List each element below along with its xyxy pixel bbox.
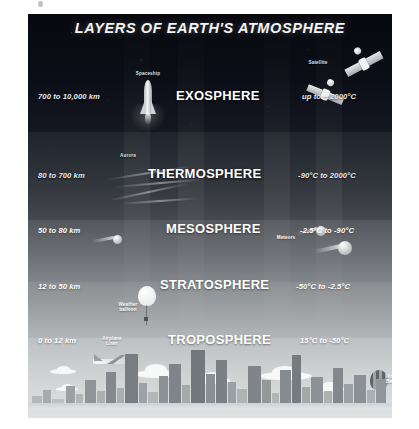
aurora-caption: Aurora	[106, 153, 150, 159]
temperature-label-exosphere: up to ~ 2000°C	[302, 92, 356, 101]
altitude-label-mesosphere: 50 to 80 km	[38, 226, 80, 235]
city-skyline	[28, 332, 392, 410]
meteors-caption: Meteors	[264, 235, 308, 241]
light-column	[264, 14, 290, 344]
poster-title: LAYERS OF EARTH'S ATMOSPHERE	[28, 20, 392, 36]
layer-name-mesosphere: MESOSPHERE	[166, 221, 261, 236]
temperature-label-thermosphere: -90°C to 2000°C	[298, 171, 356, 180]
spaceship-caption: Spaceship	[126, 71, 170, 77]
meteor-icon	[92, 232, 122, 246]
screenshot-canvas: LAYERS OF EARTH'S ATMOSPHERE Spaceship S…	[0, 0, 419, 429]
altitude-label-exosphere: 700 to 10,000 km	[38, 92, 100, 101]
layer-name-stratosphere: STRATOSPHERE	[160, 277, 269, 292]
temperature-label-mesosphere: -2.5°C to -90°C	[300, 226, 354, 235]
weather-balloon-caption-line2: balloon	[106, 307, 150, 312]
altitude-label-stratosphere: 12 to 50 km	[38, 282, 80, 291]
atmosphere-infographic: LAYERS OF EARTH'S ATMOSPHERE Spaceship S…	[28, 14, 392, 418]
meteor-icon	[314, 238, 352, 258]
altitude-label-thermosphere: 80 to 700 km	[38, 171, 85, 180]
layer-name-exosphere: EXOSPHERE	[176, 88, 260, 103]
temperature-label-stratosphere: -50°C to -2.5°C	[296, 282, 350, 291]
layer-name-thermosphere: THERMOSPHERE	[148, 166, 261, 181]
scan-artifact-speck	[38, 1, 43, 7]
satellite-caption: Satellite	[296, 60, 340, 66]
spaceship-icon	[140, 80, 156, 124]
